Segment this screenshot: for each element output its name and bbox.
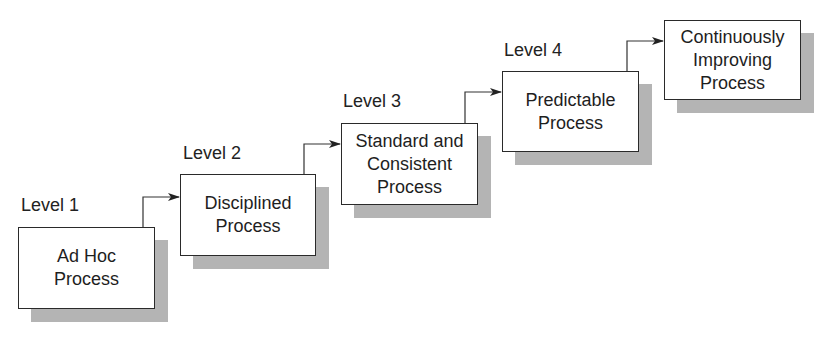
level-5-box-line: Process	[680, 72, 784, 95]
level-3-box-line: Standard and	[355, 130, 463, 153]
level-2-box-line: Process	[204, 215, 291, 238]
level-5-box-line: Continuously	[680, 26, 784, 49]
level-3-box: Standard and Consistent Process	[341, 123, 478, 205]
arrow-level-2-to-3	[304, 144, 340, 175]
level-4-label: Level 4	[504, 40, 562, 60]
level-3-label: Level 3	[343, 91, 401, 111]
level-3-box-line: Process	[355, 176, 463, 199]
arrow-level-1-to-2	[143, 197, 179, 228]
level-1-label: Level 1	[21, 195, 79, 215]
level-5-box: Continuously Improving Process	[664, 20, 801, 100]
level-4-box-line: Process	[525, 112, 615, 135]
level-4-box-line: Predictable	[525, 89, 615, 112]
level-5-box-line: Improving	[680, 49, 784, 72]
level-2-box-line: Disciplined	[204, 192, 291, 215]
process-maturity-staircase-diagram: Level 1 Level 2 Level 3 Level 4 Ad Hoc P…	[0, 0, 825, 339]
level-1-box-line: Process	[54, 268, 119, 291]
level-4-box: Predictable Process	[502, 71, 639, 152]
arrow-level-4-to-5	[627, 41, 663, 72]
arrow-level-3-to-4	[465, 92, 501, 124]
level-3-box-line: Consistent	[355, 153, 463, 176]
level-2-box: Disciplined Process	[180, 174, 316, 256]
level-1-box: Ad Hoc Process	[18, 227, 155, 309]
level-2-label: Level 2	[183, 143, 241, 163]
level-1-box-line: Ad Hoc	[54, 245, 119, 268]
